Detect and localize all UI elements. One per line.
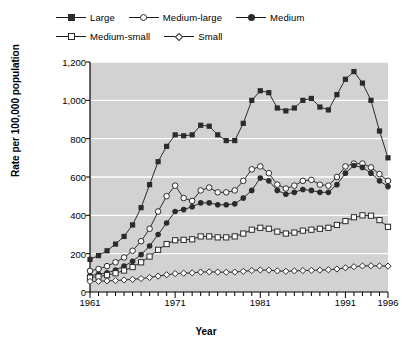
data-point-marker xyxy=(138,252,144,258)
data-point-marker xyxy=(215,269,221,275)
data-point-marker xyxy=(334,266,340,272)
data-point-marker xyxy=(147,274,153,280)
data-point-marker xyxy=(130,222,135,227)
data-point-marker xyxy=(309,96,314,101)
legend-label: Small xyxy=(198,31,222,42)
data-point-marker xyxy=(215,202,221,208)
data-point-marker xyxy=(292,183,298,189)
data-point-marker xyxy=(164,193,170,199)
data-point-marker xyxy=(121,255,127,261)
chart-legend: LargeMedium-largeMediumMedium-smallSmall xyxy=(56,8,396,48)
data-point-marker xyxy=(138,205,143,210)
data-point-marker xyxy=(155,273,161,279)
data-point-marker xyxy=(385,224,390,229)
data-point-marker xyxy=(189,198,195,204)
data-point-marker xyxy=(385,184,391,190)
data-point-marker xyxy=(156,159,161,164)
data-point-marker xyxy=(224,138,229,143)
legend-entry-medium-small[interactable]: Medium-small xyxy=(56,27,150,46)
data-point-marker xyxy=(181,207,187,213)
data-point-marker xyxy=(377,218,382,223)
legend-line-sample xyxy=(164,31,194,42)
open-circle-marker-icon xyxy=(140,14,147,21)
data-point-marker xyxy=(326,107,331,112)
data-point-marker xyxy=(198,200,204,206)
open-diamond-marker-icon xyxy=(175,32,183,40)
y-axis-tick-labels: 02004006008001,0001,200 xyxy=(40,62,86,292)
legend-label: Medium-large xyxy=(163,12,222,23)
data-point-marker xyxy=(240,268,246,274)
data-point-marker xyxy=(368,170,374,176)
data-point-marker xyxy=(164,144,169,149)
y-tick-label: 400 xyxy=(70,210,86,221)
data-point-marker xyxy=(343,164,349,170)
legend-entry-medium[interactable]: Medium xyxy=(236,8,304,27)
data-point-marker xyxy=(300,178,306,184)
y-tick-label: 800 xyxy=(70,133,86,144)
data-point-marker xyxy=(215,132,220,137)
data-point-marker xyxy=(147,254,152,259)
data-point-marker xyxy=(224,235,229,240)
data-point-marker xyxy=(130,259,136,265)
data-point-marker xyxy=(249,167,255,173)
data-point-marker xyxy=(156,247,161,252)
data-point-marker xyxy=(266,90,271,95)
data-point-marker xyxy=(147,226,153,232)
filled-square-marker-icon xyxy=(68,14,75,21)
data-point-marker xyxy=(309,177,315,183)
series-line xyxy=(90,164,388,271)
data-point-marker xyxy=(275,182,281,188)
open-square-marker-icon xyxy=(68,33,75,40)
data-point-marker xyxy=(130,264,135,269)
legend-label: Large xyxy=(90,12,115,23)
data-point-marker xyxy=(258,88,263,93)
data-point-marker xyxy=(275,105,280,110)
data-point-marker xyxy=(308,267,314,273)
y-tick-label: 600 xyxy=(70,172,86,183)
x-tick-label: 1991 xyxy=(335,297,356,308)
data-point-marker xyxy=(96,266,102,272)
data-point-marker xyxy=(368,165,374,171)
legend-line-sample xyxy=(56,12,86,23)
data-point-marker xyxy=(138,260,143,265)
data-point-marker xyxy=(343,170,349,176)
data-point-marker xyxy=(206,269,212,275)
x-tick-label: 1981 xyxy=(250,297,271,308)
legend-entry-small[interactable]: Small xyxy=(164,27,222,46)
data-point-marker xyxy=(283,108,288,113)
data-point-marker xyxy=(181,270,187,276)
data-point-marker xyxy=(104,273,109,278)
data-point-marker xyxy=(266,178,272,184)
data-point-marker xyxy=(223,190,229,196)
data-point-marker xyxy=(317,190,323,196)
data-point-marker xyxy=(368,98,373,103)
data-point-marker xyxy=(275,229,280,234)
x-axis-tick-labels: 19611971198119911996 xyxy=(90,297,388,311)
data-point-marker xyxy=(198,123,203,128)
data-point-marker xyxy=(190,132,195,137)
legend-entry-large[interactable]: Large xyxy=(56,8,115,27)
data-point-marker xyxy=(283,186,289,192)
data-point-marker xyxy=(113,271,118,276)
series-medium-large xyxy=(87,161,391,274)
data-point-marker xyxy=(334,92,339,97)
data-point-marker xyxy=(181,133,186,138)
data-point-marker xyxy=(317,226,322,231)
data-point-marker xyxy=(300,187,306,193)
data-point-marker xyxy=(283,268,289,274)
data-point-marker xyxy=(351,69,356,74)
data-point-marker xyxy=(121,268,126,273)
data-point-marker xyxy=(377,171,383,177)
data-point-marker xyxy=(377,128,382,133)
x-tick-label: 1996 xyxy=(377,297,398,308)
data-point-marker xyxy=(232,188,238,194)
data-point-marker xyxy=(292,190,298,196)
data-point-marker xyxy=(206,200,212,206)
legend-entry-medium-large[interactable]: Medium-large xyxy=(129,8,222,27)
data-point-marker xyxy=(317,182,323,188)
legend-label: Medium-small xyxy=(90,31,150,42)
data-point-marker xyxy=(385,178,391,184)
data-point-marker xyxy=(300,98,305,103)
legend-line-sample xyxy=(236,12,266,23)
data-point-marker xyxy=(334,182,340,188)
